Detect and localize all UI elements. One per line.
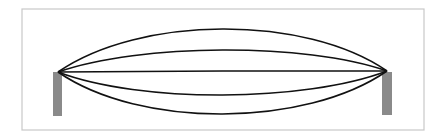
curve-3 bbox=[58, 71, 387, 72]
curve-5 bbox=[58, 71, 387, 114]
right-post bbox=[382, 72, 392, 115]
curve-4 bbox=[58, 71, 387, 95]
left-post bbox=[53, 72, 62, 116]
curve-2 bbox=[58, 50, 387, 72]
frame-border bbox=[22, 9, 424, 130]
string-diagram bbox=[0, 0, 446, 136]
